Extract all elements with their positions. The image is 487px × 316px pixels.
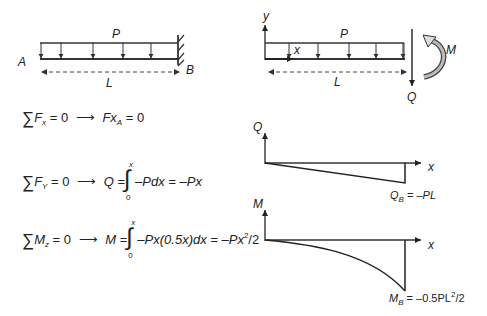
load-arrows: [289, 43, 403, 58]
free-body-diagram: y x P L Q M: [262, 9, 456, 104]
implies-arrow-icon: ⟶: [76, 110, 95, 125]
integral-icon: ∫x0: [127, 232, 137, 246]
x-axis-label: x: [427, 238, 435, 252]
m-axis-label: M: [253, 197, 263, 211]
equation-sum-fx: ∑Fx = 0 ⟶ FxA = 0: [22, 110, 144, 127]
sigma-icon: ∑: [22, 173, 34, 192]
fixed-wall-support: [178, 35, 184, 66]
equation-sum-fy: ∑FY = 0 ⟶ Q =∫x0–Pdx = –Px: [22, 174, 202, 191]
left-length-label: L: [106, 76, 113, 90]
implies-arrow-icon: ⟶: [79, 232, 98, 247]
shear-curve: [265, 163, 405, 183]
q-b-label: QB = –PL: [390, 189, 436, 204]
moment-diagram: M x MB = –0.5PL2/2: [253, 197, 465, 307]
x-axis-label: x: [293, 43, 301, 57]
moment-curve: [265, 240, 405, 291]
left-beam-diagram: P A B L: [17, 27, 194, 90]
shear-label: Q: [407, 90, 416, 104]
left-load-label: P: [112, 27, 120, 41]
implies-arrow-icon: ⟶: [77, 174, 96, 189]
end-b-label: B: [186, 63, 194, 77]
end-a-label: A: [17, 55, 26, 69]
sigma-icon: ∑: [22, 231, 34, 250]
x-axis-label: x: [427, 160, 435, 174]
moment-label: M: [446, 43, 456, 57]
y-axis-label: y: [262, 9, 270, 23]
q-axis-label: Q: [253, 120, 262, 134]
equation-sum-mz: ∑Mz = 0 ⟶ M =∫x0–Px(0.5x)dx = –Px2/2: [22, 232, 259, 249]
load-arrows: [41, 43, 151, 58]
right-load-label: P: [340, 27, 348, 41]
integral-icon: ∫x0: [125, 174, 135, 188]
moment-arrow: [423, 35, 444, 77]
m-b-label: MB = –0.5PL2/2: [389, 290, 465, 307]
right-length-label: L: [334, 75, 341, 89]
sigma-icon: ∑: [22, 109, 34, 128]
shear-diagram: Q x QB = –PL: [253, 120, 436, 204]
